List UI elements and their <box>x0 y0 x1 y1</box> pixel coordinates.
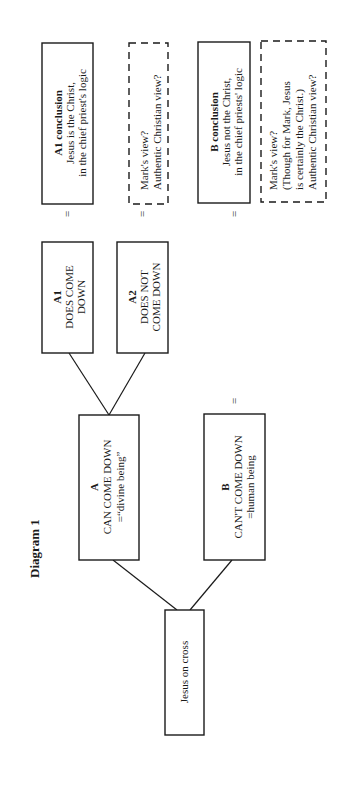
equals-sign-a1: = <box>61 211 73 217</box>
node-b-heading: B <box>219 483 231 491</box>
a1-conclusion-heading: A1 conclusion <box>52 90 64 156</box>
diagram-title: Diagram 1 <box>27 519 42 578</box>
node-root-label: Jesus on cross <box>178 641 190 703</box>
node-b: B CAN'T COME DOWN =human being <box>204 414 265 560</box>
node-a-line-2: =“divine being” <box>114 452 126 523</box>
a1-conclusion-line-1: Jesus is the Christ, <box>64 82 76 164</box>
node-a2-line-1: DOES NOT <box>138 270 150 324</box>
node-a-heading: A <box>88 483 100 491</box>
b-view-line-1: Mark's view? <box>267 131 279 190</box>
connector-a-to-a2 <box>109 353 145 415</box>
node-jesus-on-cross: Jesus on cross <box>165 610 204 735</box>
node-a1-line-1: DOES COME <box>63 265 75 329</box>
diagram-canvas: Diagram 1 Jesus on cross A CAN COME DOWN… <box>0 0 346 792</box>
equals-sign-b-conclusion: = <box>228 211 240 217</box>
node-a-line-1: CAN COME DOWN <box>101 440 113 535</box>
node-b-line-1: CAN'T COME DOWN <box>232 435 244 538</box>
b-view-line-2: (Though for Mark, Jesus <box>280 81 293 190</box>
connector-root-to-a <box>113 560 177 610</box>
b-conclusion-line-1: Jesus not the Christ, <box>220 77 232 166</box>
connector-root-to-b <box>190 560 232 610</box>
equals-sign-a2: = <box>136 211 148 217</box>
b-conclusion-line-2: in the chief priests' logic <box>232 68 244 176</box>
node-a1-conclusion: A1 conclusion Jesus is the Christ, in th… <box>42 43 93 204</box>
b-conclusion-heading: B conclusion <box>208 92 220 152</box>
node-a1: A1 DOES COME DOWN <box>42 242 93 353</box>
node-b-line-2: =human being <box>244 455 256 519</box>
node-a2-heading: A2 <box>126 290 138 304</box>
a2-view-line-1: Mark's view? <box>138 131 150 190</box>
node-a1-heading: A1 <box>51 290 63 303</box>
node-a2-view: Mark's view? Authentic Christian view? <box>129 43 168 204</box>
b-view-line-3: is certainly the Christ.) <box>293 89 306 190</box>
node-a2-line-2: COME DOWN <box>150 263 162 332</box>
a2-view-line-2: Authentic Christian view? <box>151 74 163 190</box>
node-a: A CAN COME DOWN =“divine being” <box>79 415 139 560</box>
node-b-conclusion: B conclusion Jesus not the Christ, in th… <box>198 42 250 203</box>
node-b-view: Mark's view? (Though for Mark, Jesus is … <box>261 41 326 202</box>
a1-conclusion-line-2: in the chief priest's logic <box>76 69 88 177</box>
node-a1-line-2: DOWN <box>75 280 87 314</box>
node-a2: A2 DOES NOT COME DOWN <box>117 242 168 353</box>
equals-sign-b: = <box>228 398 240 404</box>
connector-a-to-a1 <box>69 353 109 415</box>
b-view-line-4: Authentic Christian view? <box>306 74 318 190</box>
